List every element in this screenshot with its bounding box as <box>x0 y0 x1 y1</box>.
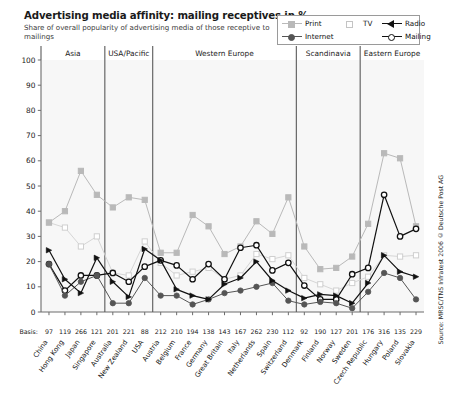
series-point-mailing-20 <box>365 265 370 270</box>
series-point-mailing-5 <box>126 279 131 284</box>
series-point-mailing-10 <box>206 261 211 266</box>
y-tick-label-30: 30 <box>26 232 36 241</box>
series-point-internet-18 <box>334 300 339 305</box>
series-point-mailing-12 <box>238 245 243 250</box>
category-label-12: Italy <box>226 339 241 356</box>
basis-value-3: 121 <box>91 328 103 335</box>
basis-value-13: 262 <box>250 328 262 335</box>
series-point-print-6 <box>142 197 147 202</box>
series-point-print-16 <box>302 244 307 249</box>
series-point-internet-6 <box>142 275 147 280</box>
series-point-internet-1 <box>62 293 67 298</box>
series-point-tv-3 <box>94 234 99 239</box>
basis-value-21: 316 <box>378 328 390 335</box>
series-point-print-10 <box>206 224 211 229</box>
y-tick-label-40: 40 <box>26 207 36 216</box>
series-point-print-8 <box>174 250 179 255</box>
series-point-print-18 <box>334 265 339 270</box>
series-point-internet-22 <box>397 275 402 280</box>
series-point-tv-5 <box>126 273 131 278</box>
series-point-print-14 <box>270 231 275 236</box>
basis-value-7: 212 <box>155 328 167 335</box>
series-point-internet-8 <box>174 293 179 298</box>
series-point-tv-18 <box>334 288 339 293</box>
series-point-mailing-4 <box>110 270 115 275</box>
series-point-tv-8 <box>174 273 179 278</box>
series-point-mailing-21 <box>381 192 386 197</box>
series-point-internet-4 <box>110 300 115 305</box>
basis-value-2: 266 <box>75 328 87 335</box>
basis-value-23: 229 <box>410 328 422 335</box>
y-tick-label-60: 60 <box>26 156 36 165</box>
basis-value-8: 210 <box>171 328 183 335</box>
series-point-internet-0 <box>46 261 51 266</box>
series-point-tv-20 <box>366 274 371 279</box>
series-point-print-13 <box>254 219 259 224</box>
basis-value-5: 221 <box>123 328 135 335</box>
series-point-internet-3 <box>94 273 99 278</box>
series-point-tv-2 <box>78 244 83 249</box>
basis-value-10: 138 <box>203 328 215 335</box>
series-point-print-4 <box>110 205 115 210</box>
basis-value-18: 127 <box>330 328 342 335</box>
series-point-tv-22 <box>397 254 402 259</box>
series-point-internet-15 <box>286 298 291 303</box>
series-point-mailing-9 <box>190 277 195 282</box>
basis-value-6: 88 <box>141 328 149 335</box>
series-point-print-17 <box>318 267 323 272</box>
series-point-internet-12 <box>238 288 243 293</box>
series-point-internet-19 <box>349 306 354 311</box>
series-point-internet-5 <box>126 300 131 305</box>
series-point-print-2 <box>78 168 83 173</box>
series-point-tv-1 <box>62 225 67 230</box>
series-point-internet-2 <box>78 279 83 284</box>
basis-value-15: 112 <box>282 328 294 335</box>
source-note: Source: MRSC/TNS Infratest 2006 © Deutsc… <box>437 175 449 375</box>
series-point-print-3 <box>94 192 99 197</box>
series-point-mailing-15 <box>286 260 291 265</box>
series-point-print-15 <box>286 195 291 200</box>
series-point-tv-17 <box>318 282 323 287</box>
basis-value-4: 201 <box>107 328 119 335</box>
series-point-mailing-2 <box>78 273 83 278</box>
series-point-mailing-22 <box>397 234 402 239</box>
basis-value-11: 143 <box>219 328 231 335</box>
chart-figure: Advertising media affinity: mailing rece… <box>0 0 452 395</box>
series-point-tv-9 <box>190 269 195 274</box>
y-tick-label-10: 10 <box>26 282 36 291</box>
chart-plot: 0102030405060708090100AsiaUSA/PacificWes… <box>0 0 452 395</box>
series-point-print-21 <box>382 151 387 156</box>
series-point-internet-7 <box>158 293 163 298</box>
series-point-print-1 <box>62 209 67 214</box>
y-tick-label-70: 70 <box>26 131 36 140</box>
basis-value-19: 201 <box>346 328 358 335</box>
series-point-internet-11 <box>222 290 227 295</box>
series-point-print-19 <box>350 254 355 259</box>
y-tick-label-50: 50 <box>26 182 36 191</box>
series-point-print-0 <box>46 220 51 225</box>
series-point-mailing-13 <box>254 243 259 248</box>
region-label-western-europe: Western Europe <box>195 49 254 58</box>
series-point-mailing-14 <box>270 268 275 273</box>
y-tick-label-90: 90 <box>26 81 36 90</box>
basis-value-20: 176 <box>362 328 374 335</box>
series-point-internet-16 <box>302 302 307 307</box>
series-point-mailing-8 <box>174 263 179 268</box>
basis-value-22: 135 <box>394 328 406 335</box>
series-point-tv-14 <box>270 256 275 261</box>
series-point-internet-9 <box>190 302 195 307</box>
series-point-tv-16 <box>302 275 307 280</box>
basis-value-14: 230 <box>266 328 278 335</box>
basis-value-0: 97 <box>45 328 53 335</box>
y-tick-label-100: 100 <box>21 56 35 65</box>
category-label-6: USA <box>131 338 146 355</box>
series-point-tv-13 <box>254 251 259 256</box>
basis-value-17: 190 <box>314 328 326 335</box>
series-point-internet-13 <box>254 284 259 289</box>
series-point-print-20 <box>366 221 371 226</box>
region-label-eastern-europe: Eastern Europe <box>364 49 421 58</box>
series-point-tv-19 <box>350 280 355 285</box>
y-tick-label-0: 0 <box>31 308 36 317</box>
series-point-mailing-11 <box>222 277 227 282</box>
series-point-tv-23 <box>413 253 418 258</box>
